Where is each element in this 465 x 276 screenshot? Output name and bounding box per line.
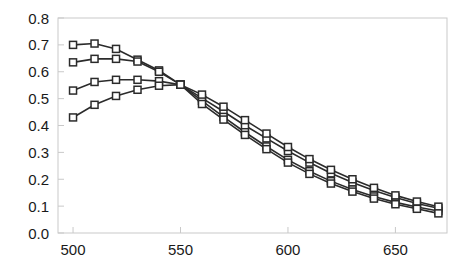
y-tick-label: 0.8 [28,10,49,27]
data-point-marker [370,195,377,202]
y-tick-label: 0.2 [28,171,49,188]
series-series-3 [70,76,442,210]
y-tick-label: 0.6 [28,63,49,80]
data-point-marker [134,86,141,93]
data-point-marker [435,210,442,217]
data-point-marker [177,81,184,88]
data-point-marker [113,55,120,62]
data-point-marker [134,58,141,65]
data-point-marker [413,198,420,205]
data-point-marker [306,156,313,163]
series-series-4 [70,81,442,217]
data-point-marker [113,76,120,83]
data-point-marker [349,188,356,195]
data-point-marker [413,205,420,212]
data-point-marker [70,87,77,94]
data-point-marker [220,116,227,123]
y-tick-label: 0.0 [28,225,49,242]
data-point-marker [70,41,77,48]
data-point-marker [284,144,291,151]
data-point-marker [392,201,399,208]
data-point-marker [263,146,270,153]
data-point-marker [327,166,334,173]
y-tick-label: 0.4 [28,117,49,134]
line-chart: 0.00.10.20.30.40.50.60.70.8 500550600650 [0,0,465,276]
data-point-marker [198,91,205,98]
data-point-marker [91,55,98,62]
y-tick-label: 0.7 [28,36,49,53]
y-axis-ticks: 0.00.10.20.30.40.50.60.70.8 [28,10,64,242]
x-tick-label: 600 [275,241,300,258]
data-point-marker [306,170,313,177]
data-point-marker [220,103,227,110]
data-point-marker [241,117,248,124]
series-line [73,80,438,207]
x-axis-ticks: 500550600650 [61,227,408,258]
chart-canvas: 0.00.10.20.30.40.50.60.70.8 500550600650 [0,0,465,276]
data-point-marker [156,82,163,89]
data-point-marker [284,159,291,166]
data-point-marker [70,59,77,66]
data-point-marker [370,184,377,191]
data-series-layer [70,40,442,217]
data-point-marker [156,68,163,75]
data-point-marker [113,45,120,52]
data-point-marker [113,92,120,99]
y-tick-label: 0.1 [28,198,49,215]
y-tick-label: 0.3 [28,144,49,161]
data-point-marker [392,192,399,199]
data-point-marker [91,40,98,47]
data-point-marker [198,101,205,108]
data-point-marker [435,203,442,210]
x-tick-label: 650 [383,241,408,258]
data-point-marker [327,180,334,187]
data-point-marker [241,131,248,138]
data-point-marker [263,130,270,137]
data-point-marker [134,76,141,83]
y-tick-label: 0.5 [28,90,49,107]
data-point-marker [91,78,98,85]
data-point-marker [349,176,356,183]
x-tick-label: 550 [168,241,193,258]
data-point-marker [70,114,77,121]
data-point-marker [91,101,98,108]
x-tick-label: 500 [61,241,86,258]
series-line [73,59,438,211]
